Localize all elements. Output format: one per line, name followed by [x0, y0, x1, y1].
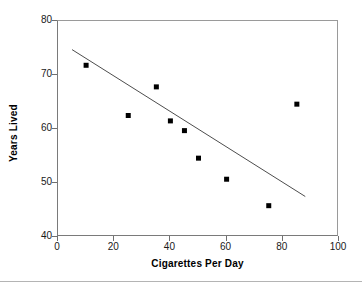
data-point-marker — [182, 128, 187, 133]
data-point-marker — [126, 113, 131, 118]
x-tick-label: 100 — [318, 241, 358, 252]
y-tick-label: 70 — [26, 69, 52, 79]
y-tick-label: 80 — [26, 15, 52, 25]
y-tick-label-wrap: 60 — [22, 123, 52, 133]
plot-canvas — [58, 21, 339, 237]
chart-page: Years Lived 8070605040 020406080100 Ciga… — [0, 0, 362, 292]
x-axis-title: Cigarettes Per Day — [57, 258, 338, 269]
plot-area — [57, 20, 338, 236]
scatter-plot-figure: Years Lived 8070605040 020406080100 Ciga… — [0, 0, 362, 280]
y-tick-label: 40 — [26, 231, 52, 241]
data-points-layer — [84, 63, 300, 208]
data-point-marker — [84, 63, 89, 68]
y-tick-label: 50 — [26, 177, 52, 187]
x-tick-label: 80 — [262, 241, 302, 252]
y-tick-label-wrap: 50 — [22, 177, 52, 187]
data-point-marker — [266, 203, 271, 208]
data-point-marker — [168, 118, 173, 123]
x-tick-label: 40 — [149, 241, 189, 252]
footer-divider — [0, 281, 362, 282]
trend-line-layer — [72, 50, 305, 197]
data-point-marker — [154, 84, 159, 89]
x-tick-label: 0 — [37, 241, 77, 252]
trend-line — [72, 50, 305, 197]
x-tick-label: 20 — [93, 241, 133, 252]
data-point-marker — [224, 177, 229, 182]
y-tick-label-wrap: 80 — [22, 15, 52, 25]
y-tick-label: 60 — [26, 123, 52, 133]
y-tick-label-wrap: 70 — [22, 69, 52, 79]
y-tick-label-wrap: 40 — [22, 231, 52, 241]
data-point-marker — [196, 156, 201, 161]
data-point-marker — [294, 102, 299, 107]
y-axis-title: Years Lived — [6, 78, 22, 188]
x-tick-label: 60 — [206, 241, 246, 252]
